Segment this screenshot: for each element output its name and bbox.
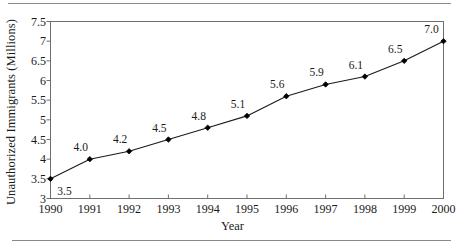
y-tick-label: 5 [14, 112, 46, 127]
axis-ticks [47, 22, 444, 199]
y-tick-label: 3.5 [14, 171, 46, 186]
data-point-label: 6.5 [388, 43, 402, 55]
data-point-label: 4.5 [152, 122, 166, 134]
axis-box [51, 22, 444, 199]
data-point-label: 5.6 [270, 78, 284, 90]
data-point-label: 4.2 [113, 133, 127, 145]
x-tick-label: 1991 [78, 202, 102, 217]
x-tick-label: 1993 [156, 202, 180, 217]
data-point-label: 5.1 [231, 98, 245, 110]
x-tick-label: 1990 [39, 202, 63, 217]
y-tick-label: 7.5 [14, 14, 46, 29]
data-point-label: 5.9 [309, 66, 323, 78]
data-series-line [51, 41, 444, 179]
y-tick-label: 4.5 [14, 132, 46, 147]
y-tick-label: 6 [14, 73, 46, 88]
y-tick-label: 6.5 [14, 53, 46, 68]
data-point-label: 3.5 [57, 185, 71, 197]
x-tick-label: 1996 [274, 202, 298, 217]
x-tick-label: 2000 [432, 202, 456, 217]
data-point-label: 4.0 [74, 141, 88, 153]
data-point-label: 6.1 [349, 59, 363, 71]
x-tick-label: 1994 [196, 202, 220, 217]
x-tick-label: 1995 [235, 202, 259, 217]
data-markers [48, 38, 446, 181]
x-tick-label: 1998 [353, 202, 377, 217]
y-tick-label: 5.5 [14, 93, 46, 108]
y-tick-label: 4 [14, 152, 46, 167]
x-tick-label: 1997 [314, 202, 338, 217]
x-tick-label: 1992 [117, 202, 141, 217]
y-tick-label: 7 [14, 34, 46, 49]
x-tick-label: 1999 [392, 202, 416, 217]
chart-figure: Unauthorized Immigrants (Millions) Year … [0, 0, 465, 250]
data-point-label: 4.8 [192, 110, 206, 122]
data-point-label: 7.0 [424, 23, 438, 35]
